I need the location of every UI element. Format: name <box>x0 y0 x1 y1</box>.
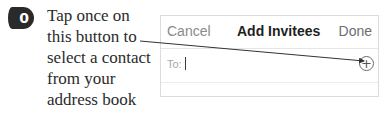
to-label: To: <box>167 58 182 70</box>
add-invitees-panel: Cancel Add Invitees Done To: + <box>160 15 379 97</box>
step-number-badge: 0 <box>12 7 34 29</box>
callout-line: Tap once on <box>47 5 157 26</box>
plus-icon: + <box>361 57 372 70</box>
cancel-button[interactable]: Cancel <box>167 23 211 39</box>
step-number: 0 <box>19 10 29 26</box>
panel-header: Cancel Add Invitees Done <box>161 16 378 49</box>
to-field-row[interactable]: To: + <box>161 48 378 83</box>
callout-line: address book <box>47 89 157 110</box>
panel-title: Add Invitees <box>237 23 320 39</box>
callout-line: from your <box>47 68 157 89</box>
callout-line: this button to <box>47 26 157 47</box>
add-contact-button[interactable]: + <box>359 56 374 71</box>
callout-line: select a contact <box>47 47 157 68</box>
callout-text: Tap once on this button to select a cont… <box>47 5 157 110</box>
done-button[interactable]: Done <box>339 23 372 39</box>
text-cursor <box>185 57 186 70</box>
